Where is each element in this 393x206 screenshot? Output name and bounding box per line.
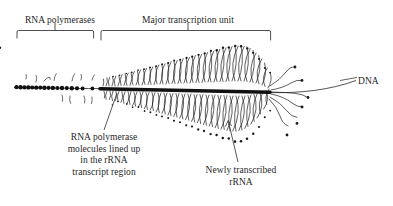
polymerase-dense-axis	[100, 89, 270, 92]
label-major-transcription-unit: Major transcription unit	[118, 15, 258, 27]
trailing-fibrils	[269, 67, 308, 126]
label-rna-polymerases: RNA polymerases	[16, 15, 104, 27]
label-rna-polymerase-molecules-caption: RNA polymerase molecules lined up in the…	[48, 132, 160, 178]
rna-polymerase-particles	[14, 85, 94, 90]
label-newly-transcribed-rrna-caption: Newly transcribed rRNA	[196, 165, 286, 188]
dna-leader-line	[340, 78, 357, 81]
rrna-transcription-diagram: RNA polymerases Major transcription unit…	[0, 0, 393, 206]
label-dna: DNA	[358, 76, 388, 88]
rrna-fibrils-above	[103, 46, 271, 88]
